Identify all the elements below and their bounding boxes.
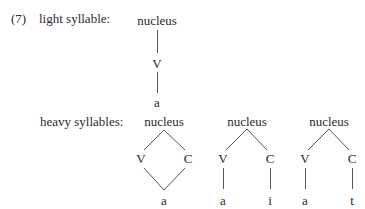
tree-branches bbox=[0, 0, 365, 209]
